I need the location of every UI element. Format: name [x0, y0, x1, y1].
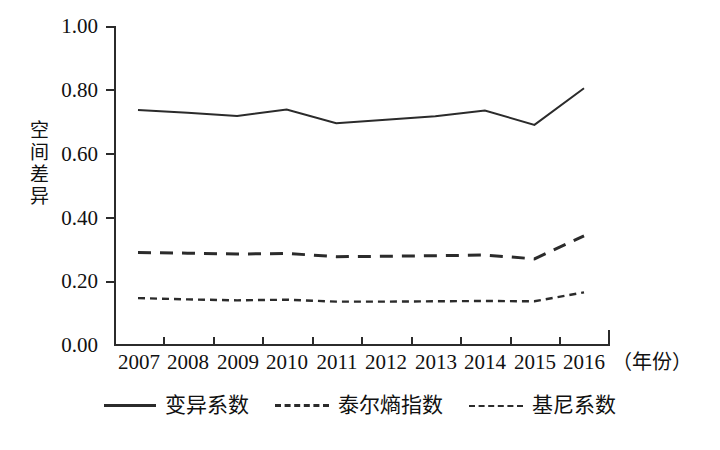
- legend-item-variation-coefficient: 变异系数: [104, 395, 249, 416]
- chart-figure: 空 间 差 异 1.00 0.80 0.60 0.40 0.20 0.00 20…: [0, 0, 720, 450]
- legend-label: 泰尔熵指数: [338, 395, 443, 416]
- series-plot: [0, 0, 720, 450]
- legend-label: 变异系数: [165, 395, 249, 416]
- series-line-variation-coefficient: [138, 88, 584, 125]
- legend-item-theil-entropy-index: 泰尔熵指数: [275, 395, 443, 416]
- legend-swatch-dashed-icon: [275, 404, 329, 407]
- legend-swatch-solid-icon: [104, 404, 156, 407]
- legend-item-gini-coefficient: 基尼系数: [469, 395, 616, 416]
- legend-swatch-dotted-icon: [469, 405, 523, 407]
- chart-legend: 变异系数 泰尔熵指数 基尼系数: [0, 395, 720, 416]
- series-line-gini-coefficient: [138, 292, 584, 301]
- legend-label: 基尼系数: [532, 395, 616, 416]
- series-line-theil-entropy-index: [138, 236, 584, 259]
